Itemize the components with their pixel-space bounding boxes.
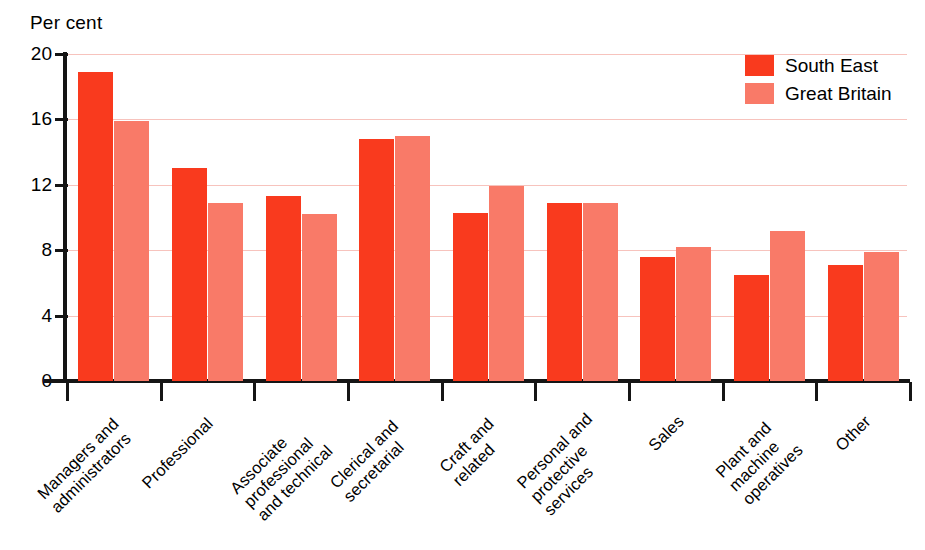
bar-south-east-2	[266, 196, 301, 381]
category-label-7: Plant and machine operatives	[711, 406, 814, 509]
x-tick-2	[253, 382, 256, 401]
bar-great-britain-6	[676, 247, 711, 381]
bar-great-britain-4	[489, 186, 524, 381]
bar-south-east-7	[734, 275, 769, 381]
legend-item-great-britain: Great Britain	[745, 80, 892, 106]
category-label-5: Personal and protective services	[513, 406, 626, 519]
x-tick-4	[441, 382, 444, 401]
bar-south-east-8	[828, 265, 863, 381]
y-tick-label-8: 8	[6, 240, 52, 259]
bar-great-britain-1	[208, 203, 243, 381]
y-tick-label-wrap-4: 4	[0, 306, 52, 325]
category-label-3: Clerical and secretarial	[326, 406, 426, 506]
legend-item-south-east: South East	[745, 52, 892, 78]
bar-south-east-4	[453, 213, 488, 381]
bar-great-britain-5	[583, 203, 618, 381]
y-tick-label-4: 4	[6, 306, 52, 325]
legend-swatch-1	[745, 83, 774, 104]
y-tick-label-20: 20	[6, 44, 52, 63]
x-tick-6	[628, 382, 631, 401]
bar-great-britain-0	[114, 121, 149, 381]
bar-great-britain-7	[770, 231, 805, 381]
x-tick-3	[347, 382, 350, 401]
category-label-6: Sales	[644, 406, 693, 455]
y-axis-title: Per cent	[30, 12, 102, 34]
chart-legend: South EastGreat Britain	[745, 52, 892, 108]
bar-south-east-5	[547, 203, 582, 381]
bar-great-britain-8	[864, 252, 899, 381]
y-tick-label-wrap-12: 12	[0, 175, 52, 194]
x-tick-1	[160, 382, 163, 401]
category-label-0: Managers and administrators	[34, 406, 145, 517]
category-label-8: Other	[832, 406, 881, 455]
category-label-1: Professional	[139, 406, 225, 492]
legend-label-0: South East	[785, 56, 878, 75]
legend-swatch-0	[745, 55, 774, 76]
bar-south-east-3	[359, 139, 394, 381]
bar-great-britain-3	[395, 136, 430, 381]
category-label-4: Craft and related	[436, 406, 520, 490]
x-tick-0	[66, 382, 69, 401]
x-tick-5	[534, 382, 537, 401]
legend-label-1: Great Britain	[785, 84, 892, 103]
y-tick-label-16: 16	[6, 109, 52, 128]
y-tick-label-12: 12	[6, 175, 52, 194]
y-tick-label-wrap-20: 20	[0, 44, 52, 63]
bar-south-east-6	[640, 257, 675, 381]
x-tick-9	[909, 382, 912, 401]
x-tick-7	[722, 382, 725, 401]
bar-great-britain-2	[302, 214, 337, 381]
bar-south-east-1	[172, 168, 207, 381]
bar-south-east-0	[78, 72, 113, 381]
bar-chart: Per cent 048121620 Managers and administ…	[0, 0, 925, 550]
y-tick-label-wrap-8: 8	[0, 240, 52, 259]
y-tick-label-wrap-16: 16	[0, 109, 52, 128]
x-tick-8	[815, 382, 818, 401]
category-label-2: Associate professional and technical	[227, 406, 346, 525]
